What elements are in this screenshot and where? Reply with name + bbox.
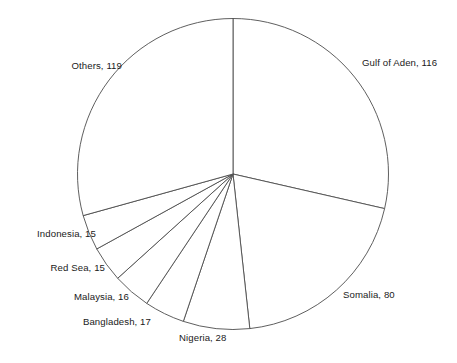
pie-label-red-sea: Red Sea, 15 [0, 262, 105, 274]
pie-label-others: Others, 119 [0, 60, 122, 72]
pie-chart-figure: Gulf of Aden, 116Somalia, 80Nigeria, 28B… [0, 0, 457, 363]
pie-label-indonesia: Indonesia, 15 [0, 228, 96, 240]
pie-slice-group [78, 19, 389, 330]
pie-chart-svg [0, 0, 457, 363]
pie-label-gulf-of-aden: Gulf of Aden, 116 [362, 57, 437, 69]
pie-label-bangladesh: Bangladesh, 17 [0, 316, 151, 328]
pie-label-somalia: Somalia, 80 [343, 289, 395, 301]
pie-label-malaysia: Malaysia, 16 [0, 291, 129, 303]
pie-label-nigeria: Nigeria, 28 [179, 332, 227, 344]
